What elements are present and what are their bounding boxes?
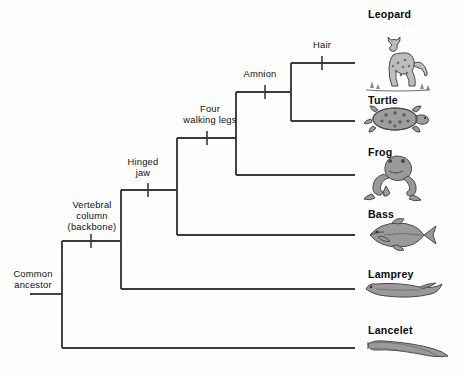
taxon-illustration-leopard bbox=[362, 33, 434, 93]
taxon-illustration-frog bbox=[362, 150, 428, 200]
cladogram-figure: Common ancestorVertebral column (backbon… bbox=[0, 0, 461, 374]
taxon-illustration-lamprey bbox=[362, 278, 454, 300]
taxon-illustration-lancelet bbox=[362, 336, 450, 360]
taxon-label-leopard: Leopard bbox=[368, 8, 411, 20]
taxon-label-lancelet: Lancelet bbox=[368, 324, 413, 336]
taxon-illustration-bass bbox=[362, 218, 438, 252]
node-label-vertebral-column: Vertebral column (backbone) bbox=[60, 199, 124, 233]
node-label-hair: Hair bbox=[303, 39, 341, 50]
node-label-amnion: Amnion bbox=[238, 68, 282, 79]
node-label-common-ancestor: Common ancestor bbox=[4, 268, 62, 290]
node-label-hinged-jaw: Hinged jaw bbox=[120, 156, 166, 178]
node-label-four-walking-legs: Four walking legs bbox=[177, 103, 243, 125]
taxon-illustration-turtle bbox=[362, 104, 434, 138]
